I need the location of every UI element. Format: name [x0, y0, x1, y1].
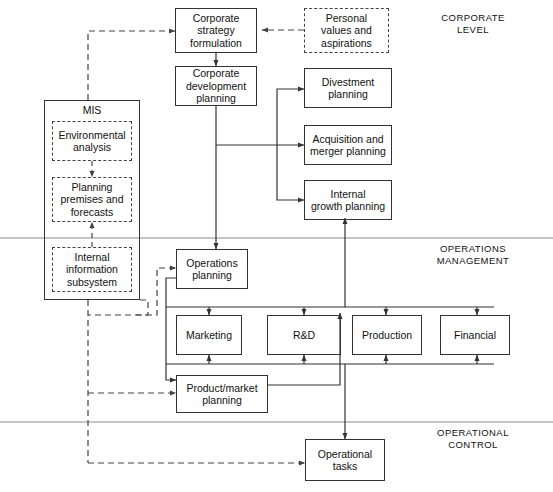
node-personal-values-and-aspirations[interactable]: Personal values and aspirations [304, 8, 389, 53]
node-operational-tasks[interactable]: Operational tasks [305, 439, 385, 481]
node-label: Internal information subsystem [66, 251, 118, 289]
node-label: Acquisition and merger planning [310, 133, 386, 158]
node-production[interactable]: Production [352, 315, 422, 355]
connector-function-bus-bottom [166, 355, 494, 364]
node-financial[interactable]: Financial [440, 315, 510, 355]
connector-mis-to-strategy [88, 31, 175, 100]
node-label: Operational tasks [318, 448, 372, 473]
band-label-operations-management: OPERATIONS MANAGEMENT [413, 243, 533, 267]
node-marketing[interactable]: Marketing [176, 315, 242, 355]
node-rnd[interactable]: R&D [267, 315, 341, 355]
node-divestment-planning[interactable]: Divestment planning [304, 68, 392, 108]
node-label-mis: MIS [83, 104, 102, 117]
node-label: Corporate strategy formulation [190, 12, 242, 50]
node-corporate-strategy-formulation[interactable]: Corporate strategy formulation [175, 8, 257, 53]
node-label: Internal growth planning [311, 188, 385, 213]
node-label: Production [362, 329, 412, 342]
connector-function-bus-top [166, 307, 494, 315]
node-planning-premises-and-forecasts[interactable]: Planning premises and forecasts [52, 177, 132, 222]
node-internal-growth-planning[interactable]: Internal growth planning [304, 180, 392, 220]
node-corporate-development-planning[interactable]: Corporate development planning [175, 66, 257, 106]
diagram-canvas: Corporate strategy formulation Personal … [0, 0, 553, 492]
band-label-corporate-level: CORPORATE LEVEL [413, 12, 533, 36]
node-label: Environmental analysis [58, 129, 125, 154]
node-label: Planning premises and forecasts [60, 181, 123, 219]
node-label: Divestment planning [322, 76, 375, 101]
node-operations-planning[interactable]: Operations planning [176, 249, 248, 289]
connector-mis-right-rail [88, 300, 148, 315]
node-label: Product/market planning [186, 382, 257, 407]
connector-mis-to-operations-planning [136, 268, 176, 315]
connector-operations-to-product-market [166, 278, 176, 380]
band-label-operational-control: OPERATIONAL CONTROL [413, 427, 533, 451]
node-internal-information-subsystem[interactable]: Internal information subsystem [52, 247, 132, 292]
node-label: Financial [454, 329, 496, 342]
node-label: Corporate development planning [186, 67, 246, 105]
node-label: Personal values and aspirations [321, 12, 372, 50]
node-label: Operations planning [186, 257, 237, 282]
node-environmental-analysis[interactable]: Environmental analysis [52, 121, 132, 161]
node-label: R&D [293, 329, 315, 342]
node-label: Marketing [186, 329, 232, 342]
node-product-market-planning[interactable]: Product/market planning [176, 375, 268, 413]
node-acquisition-and-merger-planning[interactable]: Acquisition and merger planning [304, 125, 392, 165]
